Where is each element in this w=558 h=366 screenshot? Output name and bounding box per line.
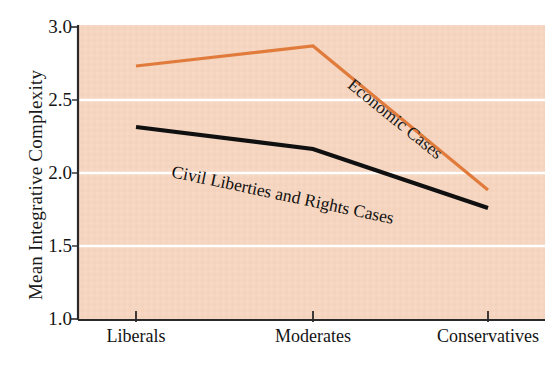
x-tick-label-liberals: Liberals — [107, 326, 166, 347]
y-axis-ticks — [70, 27, 78, 319]
chart-figure: Mean Integrative Complexity 3.0 2.5 2.0 … — [0, 0, 558, 366]
x-tick-label-conservatives: Conservatives — [437, 326, 539, 347]
x-tick-label-moderates: Moderates — [275, 326, 351, 347]
